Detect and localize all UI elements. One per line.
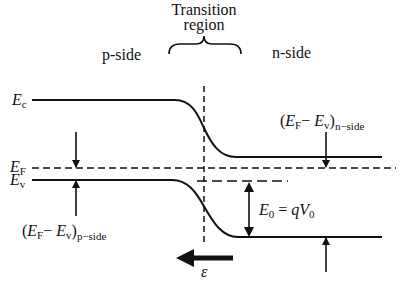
p-side-gap-label: (EF− Ev)p−side — [22, 222, 106, 242]
n-side-gap-label: (EF− Ev)n−side — [280, 112, 364, 132]
electric-field-label: ε — [201, 263, 208, 280]
svg-text:region: region — [184, 16, 225, 34]
electric-field-arrowhead — [176, 249, 194, 267]
transition-region-label: Transition region — [171, 1, 236, 34]
ec-label: Ec — [11, 91, 27, 110]
n-side-label: n-side — [272, 44, 311, 61]
barrier-label: E0 = qV0 — [258, 201, 315, 220]
valence-band — [32, 180, 382, 237]
pn-junction-band-diagram: Transition region p-side n-side Ec EF Ev… — [0, 0, 405, 285]
p-side-label: p-side — [102, 46, 141, 64]
transition-brace — [169, 36, 241, 54]
